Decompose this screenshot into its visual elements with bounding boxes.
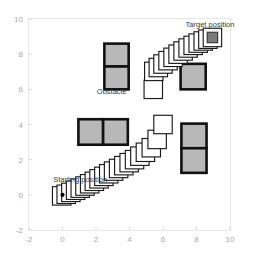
y-tick-label: 4: [19, 121, 24, 130]
obstacle-lower-right: [181, 124, 206, 173]
obstacle-cell: [181, 124, 206, 149]
x-axis-ticks: -20246810: [25, 227, 235, 244]
obstacle-cell: [181, 64, 206, 89]
annotation-label: Starting position: [53, 175, 107, 184]
target-square: [207, 32, 217, 42]
y-tick-label: 6: [19, 85, 24, 94]
x-tick-label: 4: [127, 235, 132, 244]
x-tick-label: 8: [194, 235, 199, 244]
path-step-square: [144, 80, 162, 98]
obstacle-upper-left: [104, 44, 128, 90]
annotation-label: Obstacle: [97, 87, 127, 96]
annotation-label: Target position: [186, 20, 235, 29]
obstacle-lower-left: [78, 119, 127, 144]
x-tick-label: -2: [25, 235, 33, 244]
y-tick-label: -2: [16, 226, 24, 235]
y-tick-label: 2: [19, 156, 24, 165]
x-tick-label: 6: [161, 235, 166, 244]
obstacle-cell: [181, 148, 206, 173]
chart-figure: -20246810 -20246810 Target positionObsta…: [0, 0, 263, 267]
y-axis-ticks: -20246810: [14, 15, 32, 235]
x-tick-label: 2: [94, 235, 99, 244]
y-tick-label: 10: [14, 15, 23, 24]
obstacle-cell: [78, 119, 103, 144]
path-step-square: [154, 115, 172, 133]
x-tick-label: 0: [60, 235, 65, 244]
obstacle-cell: [103, 119, 128, 144]
plot-area: -20246810 -20246810 Target positionObsta…: [0, 0, 263, 267]
y-tick-label: 8: [19, 50, 24, 59]
start-dot: [60, 193, 64, 197]
x-tick-label: 10: [226, 235, 235, 244]
obstacle-cell: [104, 44, 128, 67]
y-tick-label: 0: [19, 191, 24, 200]
obstacle-upper-right: [181, 64, 206, 89]
